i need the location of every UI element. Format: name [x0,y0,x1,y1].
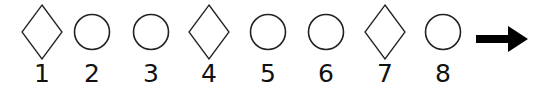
diamond-icon [356,0,414,60]
sequence-number: 4 [180,59,238,89]
sequence-item: 7 [356,0,414,93]
circle-icon [239,0,297,60]
sequence-item: 4 [180,0,238,93]
circle-icon [122,0,180,60]
sequence-number: 3 [122,59,180,89]
sequence-number: 2 [63,59,121,89]
sequence-number: 8 [414,59,472,89]
circle-icon [297,0,355,60]
sequence-item: 2 [63,0,121,93]
circle-icon [414,0,472,60]
circle-icon [63,0,121,60]
sequence-number: 6 [297,59,355,89]
sequence-number: 5 [239,59,297,89]
sequence-item: 5 [239,0,297,93]
sequence-item: 6 [297,0,355,93]
diamond-icon [180,0,238,60]
sequence-item: 8 [414,0,472,93]
right-arrow-icon [474,22,530,56]
sequence-item: 3 [122,0,180,93]
sequence-number: 7 [356,59,414,89]
